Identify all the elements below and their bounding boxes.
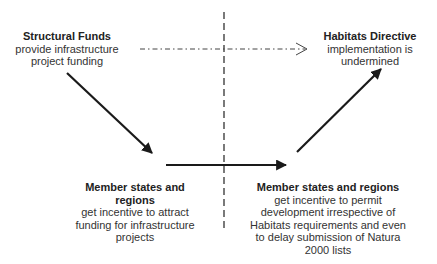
node-structural-funds: Structural Funds provide infrastructure …: [2, 30, 132, 68]
node-description: get incentive to permit development irre…: [248, 194, 408, 257]
edge-funds-to-member-left: [67, 73, 152, 153]
node-title: Member states and regions: [248, 181, 408, 194]
open-arrowhead-icon: [296, 43, 307, 55]
node-member-states-right: Member states and regions get incentive …: [248, 181, 408, 256]
edge-member-right-to-habitats: [297, 69, 381, 152]
node-habitats-directive: Habitats Directive implementation is und…: [310, 30, 430, 68]
node-title: Structural Funds: [2, 30, 132, 43]
node-description: implementation is undermined: [310, 43, 430, 68]
node-title: Member states and regions: [75, 181, 195, 206]
node-member-states-left: Member states and regions get incentive …: [75, 181, 195, 244]
node-description: provide infrastructure project funding: [2, 43, 132, 68]
node-description: get incentive to attract funding for inf…: [75, 206, 195, 244]
node-title: Habitats Directive: [310, 30, 430, 43]
